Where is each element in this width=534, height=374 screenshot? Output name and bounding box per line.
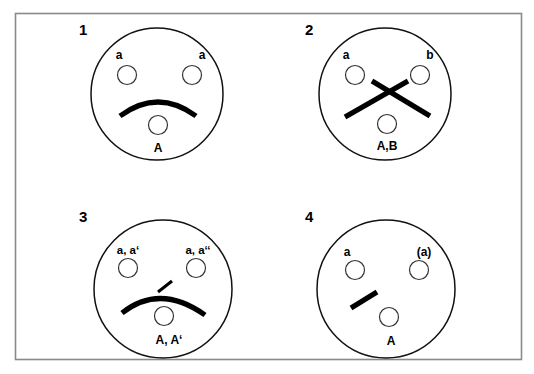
panel-3-label-top-left: a, a‘ [117,244,139,256]
panel-4-locus-top-left [346,261,365,280]
panel-3-label-bottom: A, A‘ [156,333,183,347]
panel-4-label-bottom: A [387,334,396,348]
diagram-canvas: 1 a a A 2 a b A,B 3 [0,0,534,374]
panel-1-locus-top-left [118,66,137,85]
panel-2-locus-top-left [346,66,365,85]
panel-4-locus-bottom [380,308,399,327]
panel-4-number: 4 [305,208,314,225]
panel-2-label-bottom: A,B [377,139,398,153]
panel-1-locus-top-right [183,66,202,85]
panel-3-label-top-right: a, a‘‘ [185,244,210,256]
panel-4-locus-top-right [410,261,429,280]
panel-1-label-top-right: a [199,48,206,62]
panel-3-locus-top-left [119,259,138,278]
panel-1-number: 1 [79,21,87,38]
panel-1-locus-bottom [149,116,168,135]
panel-2-label-top-left: a [343,48,350,62]
panel-4-label-top-left: a [344,245,351,259]
panel-2-label-top-right: b [426,48,433,62]
figure-frame [16,14,522,360]
panel-4-label-top-right: (a) [417,245,432,259]
panel-2-locus-top-right [411,66,430,85]
panel-2-locus-bottom [378,115,397,134]
panel-3-locus-top-right [187,259,206,278]
panel-1-label-bottom: A [154,141,163,155]
figure-root: 1 a a A 2 a b A,B 3 [0,0,534,374]
panel-2-number: 2 [305,21,313,38]
panel-1-label-top-left: a [116,48,123,62]
panel-3-locus-bottom [155,307,174,326]
panel-3-number: 3 [79,208,87,225]
